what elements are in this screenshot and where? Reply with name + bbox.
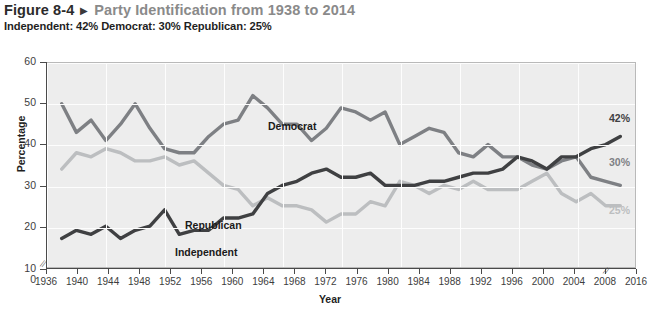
x-axis-tick [46, 269, 47, 274]
y-axis-label: 10 [6, 262, 36, 274]
gridline-horizontal [47, 187, 635, 188]
figure-subtitle: Independent: 42% Democrat: 30% Republica… [4, 20, 656, 32]
plot-area [46, 62, 636, 268]
series-label-republican: Republican [185, 219, 242, 231]
gridline-horizontal [47, 269, 635, 270]
figure-title-line: Figure 8-4 ▶ Party Identification from 1… [4, 2, 656, 18]
page-title: Party Identification from 1938 to 2014 [94, 2, 355, 18]
triangle-right-icon: ▶ [80, 5, 88, 16]
x-axis-title: Year [0, 293, 660, 305]
y-axis-label: 40 [6, 137, 36, 149]
gridline-horizontal [47, 228, 635, 229]
x-axis-tick [388, 269, 389, 274]
x-axis-tick [77, 269, 78, 274]
y-axis-label: 50 [6, 96, 36, 108]
chart-container: Percentage Year // // 010203040506019361… [0, 46, 660, 328]
gridline-vertical [578, 63, 579, 267]
y-axis-tick [40, 186, 46, 187]
gridline-horizontal [47, 104, 635, 105]
gridline-vertical [342, 63, 343, 267]
gridline-vertical [460, 63, 461, 267]
end-label-democrat: 30% [609, 156, 630, 168]
x-axis-tick [481, 269, 482, 274]
y-axis-tick [40, 103, 46, 104]
x-axis-tick [139, 269, 140, 274]
gridline-horizontal [47, 145, 635, 146]
y-axis [46, 62, 47, 268]
gridline-vertical [519, 63, 520, 267]
x-axis-tick [232, 269, 233, 274]
end-label-republican: 25% [609, 204, 630, 216]
y-axis-label: 60 [6, 55, 36, 67]
y-axis-label: 30 [6, 179, 36, 191]
y-axis-tick [40, 144, 46, 145]
line-series-democrat [62, 96, 621, 186]
x-axis-tick [605, 269, 606, 274]
figure-page: Figure 8-4 ▶ Party Identification from 1… [0, 0, 660, 328]
x-axis-tick [108, 269, 109, 274]
x-axis-tick [512, 269, 513, 274]
x-axis-tick [357, 269, 358, 274]
chart-lines [47, 63, 635, 267]
x-axis-tick [574, 269, 575, 274]
y-axis-tick [40, 62, 46, 63]
x-axis-tick [419, 269, 420, 274]
x-axis-tick [263, 269, 264, 274]
x-axis-tick [636, 269, 637, 274]
gridline-vertical [224, 63, 225, 267]
x-axis-tick [201, 269, 202, 274]
gridline-vertical [637, 63, 638, 267]
gridline-horizontal [47, 63, 635, 64]
gridline-vertical [165, 63, 166, 267]
series-label-democrat: Democrat [268, 120, 316, 132]
gridline-vertical [283, 63, 284, 267]
figure-header: Figure 8-4 ▶ Party Identification from 1… [4, 2, 656, 32]
x-axis [46, 268, 636, 269]
end-label-independent: 42% [609, 112, 630, 124]
x-axis-tick [325, 269, 326, 274]
y-axis-tick [40, 227, 46, 228]
y-axis-label: 20 [6, 220, 36, 232]
line-series-republican [62, 149, 621, 222]
series-label-independent: Independent [175, 246, 237, 258]
x-axis-tick [450, 269, 451, 274]
figure-number: Figure 8-4 [4, 2, 74, 18]
x-axis-tick [543, 269, 544, 274]
x-axis-tick [170, 269, 171, 274]
x-axis-tick [294, 269, 295, 274]
gridline-vertical [47, 63, 48, 267]
x-axis-label: 2016 [616, 276, 656, 287]
gridline-vertical [401, 63, 402, 267]
gridline-vertical [106, 63, 107, 267]
